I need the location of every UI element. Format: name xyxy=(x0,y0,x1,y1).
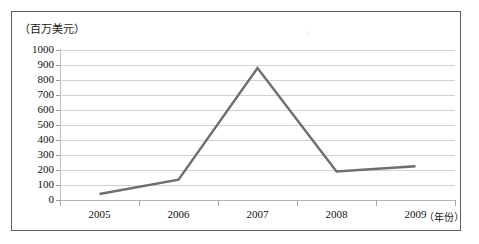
y-axis-tick-label: 500 xyxy=(38,119,55,130)
y-axis-tick xyxy=(56,80,60,81)
plot-area xyxy=(60,50,455,200)
gridline xyxy=(60,125,455,126)
y-axis-tick xyxy=(56,65,60,66)
scan-artifact xyxy=(307,31,310,34)
x-axis-tick xyxy=(455,200,456,206)
y-axis-tick-label: 1000 xyxy=(32,44,54,55)
y-axis-tick-label: 900 xyxy=(38,59,55,70)
y-axis-tick-label: 300 xyxy=(38,149,55,160)
y-axis-tick-label: 200 xyxy=(38,164,55,175)
gridline xyxy=(60,185,455,186)
gridline xyxy=(60,140,455,141)
y-axis-tick-label: 600 xyxy=(38,104,55,115)
y-axis-tick xyxy=(56,200,60,201)
x-axis-tick xyxy=(139,200,140,206)
y-axis-tick-label: 700 xyxy=(38,89,55,100)
x-axis-tick-label: 2007 xyxy=(228,208,288,221)
x-axis-tick-label: 2008 xyxy=(307,208,367,221)
y-axis-tick xyxy=(56,125,60,126)
gridline xyxy=(60,110,455,111)
gridline xyxy=(60,65,455,66)
gridline xyxy=(60,155,455,156)
gridline xyxy=(60,170,455,171)
y-axis-tick-label: 800 xyxy=(38,74,55,85)
chart-figure: （百万美元） 10009008007006005004003002001000 … xyxy=(0,0,479,244)
y-axis-tick xyxy=(56,155,60,156)
y-axis-tick xyxy=(56,185,60,186)
x-axis-tick-label: 2005 xyxy=(70,208,130,221)
x-axis-tick xyxy=(60,200,61,206)
x-axis-tick xyxy=(376,200,377,206)
x-axis-tick xyxy=(218,200,219,206)
x-axis-tick xyxy=(297,200,298,206)
y-axis-tick-labels: 10009008007006005004003002001000 xyxy=(0,0,54,244)
y-axis-tick xyxy=(56,140,60,141)
y-axis-tick-label: 400 xyxy=(38,134,55,145)
y-axis-tick-label: 0 xyxy=(49,194,55,205)
gridline xyxy=(60,80,455,81)
x-axis-unit-caption: （年份） xyxy=(424,211,464,224)
gridline xyxy=(60,95,455,96)
y-axis-tick xyxy=(56,50,60,51)
y-axis-tick-label: 100 xyxy=(38,179,55,190)
gridline xyxy=(60,200,455,201)
x-axis-tick-label: 2006 xyxy=(149,208,209,221)
gridline xyxy=(60,50,455,51)
y-axis-tick xyxy=(56,110,60,111)
y-axis-tick xyxy=(56,170,60,171)
y-axis-tick xyxy=(56,95,60,96)
